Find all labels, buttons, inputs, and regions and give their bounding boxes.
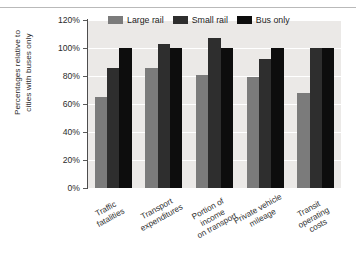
y-tick-label: 80%: [63, 71, 80, 81]
legend-label: Small rail: [192, 15, 228, 25]
legend-swatch-icon: [237, 16, 252, 24]
legend-swatch-icon: [108, 16, 123, 24]
bar: [297, 93, 309, 188]
plot-area: [88, 20, 341, 188]
bar-group: [240, 20, 291, 188]
bar-groups: [88, 20, 341, 188]
y-tick-label: 20%: [63, 155, 80, 165]
bar: [95, 97, 107, 188]
y-axis-title: Percentages relative to cities with buse…: [13, 0, 34, 148]
page-top-rule: [0, 7, 356, 8]
legend-swatch-icon: [173, 16, 188, 24]
bar: [271, 48, 283, 188]
bar: [145, 68, 157, 188]
x-category-label: Private vehicle mileage: [230, 191, 290, 236]
bar: [221, 48, 233, 188]
bar-group: [290, 20, 341, 188]
bar: [107, 68, 119, 188]
bar-group: [139, 20, 190, 188]
chart-legend: Large railSmall railBus only: [108, 15, 290, 25]
bar-group: [88, 20, 139, 188]
bar-chart-figure: Percentages relative to cities with buse…: [0, 0, 356, 259]
legend-item: Large rail: [108, 15, 164, 25]
bar: [322, 48, 334, 188]
y-tick-label: 120%: [58, 15, 80, 25]
y-tick-label: 100%: [58, 43, 80, 53]
x-category-label: Traffic fatalities: [79, 191, 139, 236]
bar: [158, 44, 170, 188]
x-category-label: Transit operating costs: [281, 191, 346, 244]
bar: [310, 48, 322, 188]
bar: [170, 48, 182, 188]
bar-group: [189, 20, 240, 188]
y-tick-label: 0%: [68, 183, 80, 193]
bar: [247, 77, 259, 188]
y-tick-label: 60%: [63, 99, 80, 109]
bar: [119, 48, 131, 188]
legend-item: Bus only: [237, 15, 290, 25]
bar: [196, 75, 208, 188]
bar: [208, 38, 220, 188]
legend-label: Large rail: [127, 15, 164, 25]
bar: [259, 59, 271, 188]
x-category-label: Transport expenditures: [129, 191, 189, 236]
legend-item: Small rail: [173, 15, 228, 25]
y-tick-label: 40%: [63, 127, 80, 137]
legend-label: Bus only: [256, 15, 290, 25]
